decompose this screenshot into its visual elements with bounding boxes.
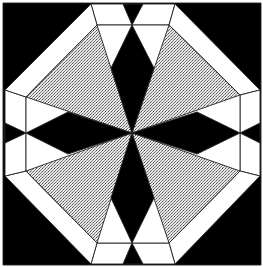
quilt-block-artwork [0, 0, 263, 267]
